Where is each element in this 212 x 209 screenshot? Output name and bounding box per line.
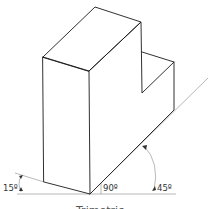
arrowhead-15-top [19,175,23,179]
arc-45 [144,146,156,191]
caption: Trimetric [75,204,124,209]
label-90: 90º [103,183,118,193]
arrowhead-45-top [142,145,147,150]
arrowhead-45-bottom [152,186,156,191]
block-drawing: 15º 90º 45º Trimetric [0,0,212,209]
label-15: 15º [3,183,18,193]
label-45: 45º [157,183,172,193]
